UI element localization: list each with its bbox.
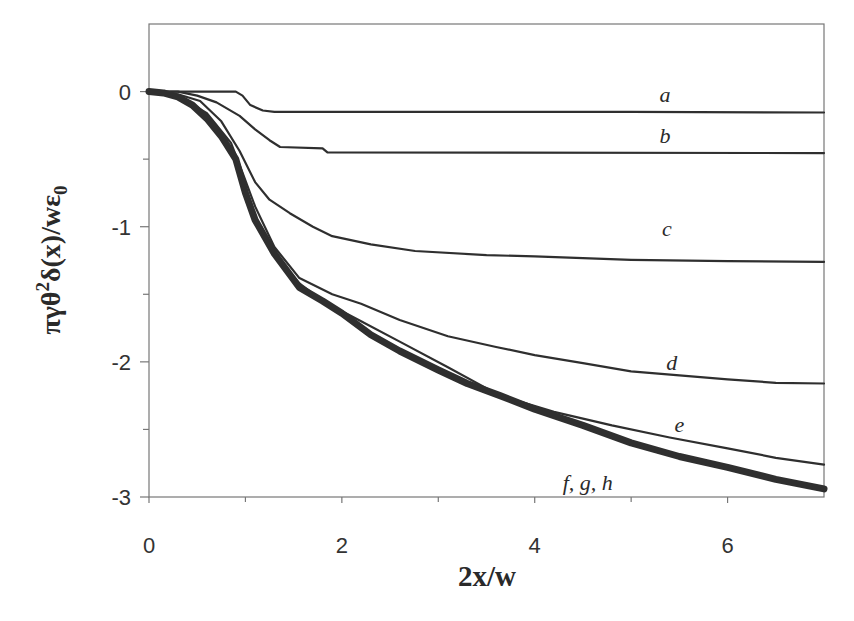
y-tick-label: -2 xyxy=(111,350,131,375)
series-e-label: e xyxy=(674,412,684,437)
data-series xyxy=(149,92,824,489)
series-d-line xyxy=(149,92,824,384)
y-axis-label: πγθ2δ(x)/wε0 xyxy=(32,185,71,334)
series-d-label: d xyxy=(666,350,678,375)
x-tick-label: 2 xyxy=(336,533,348,558)
series-fgh-line xyxy=(149,92,824,489)
series-a-label: a xyxy=(659,82,670,107)
series-a-line xyxy=(149,92,824,113)
y-label-sub: 0 xyxy=(50,185,71,195)
x-tick-label: 4 xyxy=(529,533,541,558)
x-axis-ticks xyxy=(149,497,728,503)
y-label-mid: δ(x)/wε xyxy=(35,195,66,282)
series-labels: abcdef, g, h xyxy=(563,82,685,495)
x-tick-label: 6 xyxy=(721,533,733,558)
x-tick-label: 0 xyxy=(143,533,155,558)
y-label-sup: 2 xyxy=(32,282,53,292)
y-tick-label: 0 xyxy=(119,80,131,105)
series-c-label: c xyxy=(662,216,672,241)
y-axis-tick-labels: 0-1-2-3 xyxy=(111,80,131,510)
series-b-label: b xyxy=(659,123,670,148)
y-tick-label: -3 xyxy=(111,485,131,510)
series-fgh-label: f, g, h xyxy=(563,470,613,495)
x-axis-label: 2x/w xyxy=(458,560,516,592)
series-b-line xyxy=(149,92,824,154)
chart: 0246 0-1-2-3 abcdef, g, h 2x/w πγθ2δ(x)/… xyxy=(0,0,854,621)
x-axis-tick-labels: 0246 xyxy=(143,533,734,558)
series-e-line xyxy=(149,92,824,465)
y-axis-ticks xyxy=(140,92,149,497)
y-label-pre: πγθ xyxy=(35,292,66,335)
series-c-line xyxy=(149,92,824,262)
y-tick-label: -1 xyxy=(111,215,131,240)
